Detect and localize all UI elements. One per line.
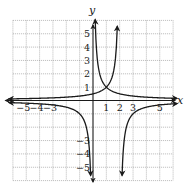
x-tick-label: 5	[157, 102, 163, 113]
x-tick-label: −4	[30, 102, 44, 113]
y-tick-label: −3	[76, 135, 90, 146]
y-tick-label: −5	[76, 162, 90, 173]
y-axis-label: y	[88, 4, 96, 17]
y-tick-label: 4	[84, 42, 90, 53]
curve-shifted-reciprocal-left-branch	[9, 26, 117, 99]
graph: −5−4−3123512345−3−4−5 x y	[0, 0, 194, 189]
x-tick-label: 2	[117, 102, 123, 113]
y-tick-label: 1	[84, 82, 90, 93]
x-axis-label: x	[177, 94, 184, 107]
y-tick-label: −4	[76, 148, 90, 159]
x-tick-label: −3	[43, 102, 57, 113]
y-tick-label: 5	[84, 28, 90, 39]
y-tick-label: 3	[84, 55, 90, 66]
curve-shifted-reciprocal-right-branch	[122, 104, 177, 176]
x-tick-label: −5	[16, 102, 30, 113]
y-tick-label: 2	[84, 68, 90, 79]
x-tick-label: 3	[130, 102, 136, 113]
x-tick-label: 1	[103, 102, 109, 113]
